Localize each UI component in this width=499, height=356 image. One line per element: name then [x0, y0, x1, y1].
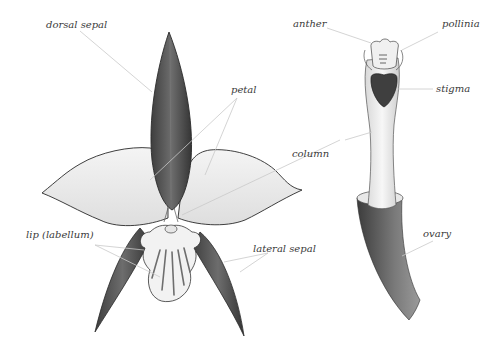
- label-petal: petal: [231, 84, 257, 96]
- lateral-sepal-right: [192, 232, 244, 336]
- label-lip-labellum: lip (labellum): [26, 229, 94, 241]
- label-dorsal-sepal: dorsal sepal: [46, 19, 107, 31]
- label-column: column: [292, 148, 329, 160]
- label-anther: anther: [293, 18, 327, 30]
- label-stigma: stigma: [436, 83, 470, 95]
- label-lateral-sepal: lateral sepal: [253, 243, 316, 255]
- ovary: [357, 198, 420, 320]
- petal-left: [42, 148, 168, 226]
- orchid-flower-front-view: [42, 32, 302, 336]
- label-ovary: ovary: [423, 228, 451, 240]
- anther: [371, 39, 399, 69]
- orchid-column-detail: [357, 39, 420, 320]
- column-tip: [165, 225, 177, 233]
- label-pollinia: pollinia: [442, 18, 480, 30]
- orchid-diagram: [0, 0, 499, 356]
- lip-labellum: [140, 225, 200, 301]
- dorsal-sepal: [151, 32, 192, 210]
